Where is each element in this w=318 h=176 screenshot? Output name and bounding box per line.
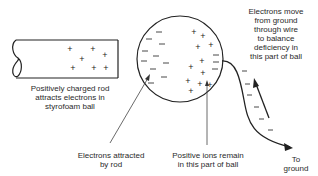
svg-text:+: +: [91, 63, 96, 73]
svg-text:+: +: [185, 76, 190, 86]
svg-text:+: +: [200, 68, 205, 78]
svg-text:+: +: [191, 27, 196, 37]
svg-text:+: +: [102, 50, 107, 60]
electrons-attracted-caption: Electrons attracted by rod: [58, 151, 164, 169]
positive-ions-caption: Positive ions remain in this part of bal…: [158, 151, 258, 169]
rod-caption: Positively charged rod attracts electron…: [14, 84, 126, 111]
ground-wire: [222, 61, 290, 147]
svg-text:+: +: [103, 63, 108, 73]
svg-text:+: +: [188, 86, 193, 96]
wire-electrons: [242, 71, 273, 130]
svg-text:+: +: [79, 54, 84, 64]
svg-text:+: +: [208, 40, 213, 50]
ball-negative-charges: [141, 32, 219, 83]
svg-text:+: +: [70, 63, 75, 73]
svg-text:+: +: [197, 79, 202, 89]
ball-positive-charges: + + + + + + + + + + +: [185, 27, 213, 96]
svg-text:+: +: [195, 42, 200, 52]
svg-text:+: +: [67, 44, 72, 54]
svg-text:+: +: [188, 62, 193, 72]
rod-positive-charges: + + + + + + +: [67, 44, 108, 73]
svg-text:+: +: [90, 44, 95, 54]
svg-text:+: +: [199, 56, 204, 66]
ground-arrowhead: [284, 143, 293, 151]
electron-flow-arrow: [253, 78, 269, 118]
electrons-move-caption: Electrons move from ground through wire …: [238, 7, 314, 61]
svg-text:+: +: [200, 31, 205, 41]
ground-caption: To ground: [276, 155, 316, 173]
electrons-pointer-arrowhead: [145, 74, 150, 81]
